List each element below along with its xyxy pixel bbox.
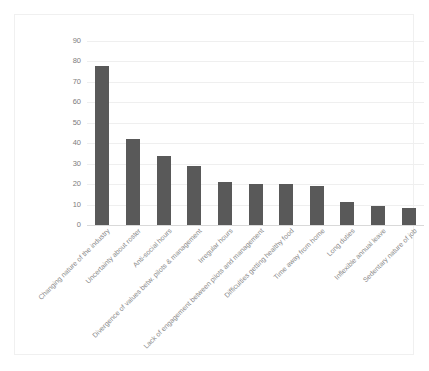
y-axis-tick-label: 0 bbox=[77, 221, 81, 229]
gridline bbox=[87, 82, 424, 83]
gridline bbox=[87, 102, 424, 103]
gridline bbox=[87, 41, 424, 42]
y-axis-tick-label: 30 bbox=[73, 160, 81, 168]
bar bbox=[157, 156, 171, 226]
x-axis-category-label: Divergence of values betw. pilots & mana… bbox=[91, 227, 203, 339]
y-axis-tick-label: 70 bbox=[73, 78, 81, 86]
bar bbox=[95, 66, 109, 225]
axis-baseline bbox=[87, 225, 424, 226]
bar-chart-plot-area: 0102030405060708090 bbox=[87, 41, 424, 225]
bar bbox=[371, 206, 385, 225]
y-axis-tick-label: 20 bbox=[73, 180, 81, 188]
y-axis-tick-label: 10 bbox=[73, 201, 81, 209]
bar bbox=[340, 202, 354, 226]
y-axis-tick-label: 90 bbox=[73, 37, 81, 45]
gridline bbox=[87, 123, 424, 124]
bar bbox=[402, 208, 416, 225]
x-axis-category-label: Uncertainty about roster bbox=[84, 227, 142, 285]
y-axis-tick-label: 80 bbox=[73, 58, 81, 66]
y-axis-tick-label: 50 bbox=[73, 119, 81, 127]
bar bbox=[249, 184, 263, 225]
y-axis-tick-label: 60 bbox=[73, 99, 81, 107]
y-axis-tick-label: 40 bbox=[73, 139, 81, 147]
chart-frame: 0102030405060708090 Changing nature of t… bbox=[14, 14, 414, 355]
bar bbox=[218, 182, 232, 225]
bar bbox=[310, 186, 324, 225]
bar bbox=[187, 166, 201, 225]
gridline bbox=[87, 61, 424, 62]
bar bbox=[279, 184, 293, 225]
x-axis-category-label: Sedentary nature of job bbox=[361, 227, 418, 284]
bar bbox=[126, 139, 140, 225]
x-axis-category-label: Long duties bbox=[326, 227, 357, 258]
